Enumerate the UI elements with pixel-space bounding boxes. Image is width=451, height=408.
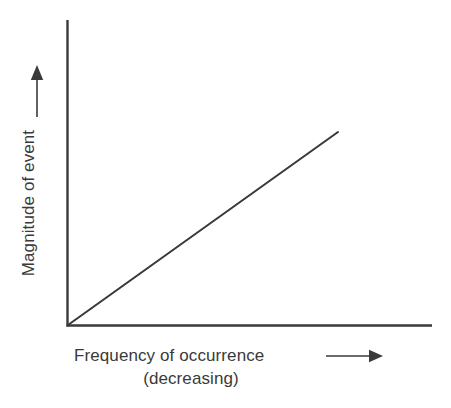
chart-figure: Magnitude of event Frequency of occurren… bbox=[0, 0, 451, 408]
x-axis-right-arrow-icon bbox=[324, 346, 386, 366]
y-axis-label: Magnitude of event bbox=[16, 78, 42, 328]
x-axis-label-note: (decreasing) bbox=[74, 367, 308, 391]
data-series-line bbox=[68, 132, 338, 325]
y-axis-label-group: Magnitude of event bbox=[0, 60, 56, 326]
x-axis-label: Frequency of occurrence bbox=[74, 344, 264, 368]
x-axis-label-group: Frequency of occurrence (decreasing) bbox=[62, 344, 392, 402]
